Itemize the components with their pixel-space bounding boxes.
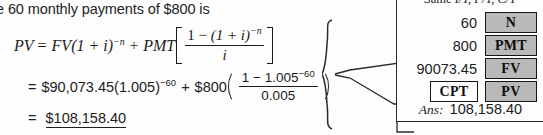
calculator-key-slot-n: N: [484, 12, 543, 33]
calculator-row-pmt: 800 PMT: [397, 34, 543, 57]
numeric-fv-value: $90,073.45: [41, 79, 114, 95]
textbook-figure-page: e 60 monthly payments of $800 is PV = FV…: [0, 0, 543, 135]
answer-value: 108,158.40: [450, 101, 523, 117]
numeric-plus-sign: +: [181, 79, 189, 95]
right-bracket: [267, 27, 273, 64]
calculator-answer-row: Ans:108,158.40: [397, 101, 543, 118]
calculator-key-slot-fv: FV: [484, 58, 543, 79]
numeric-fv-base-text: (1.005): [114, 79, 160, 95]
calculator-key-slot-pmt: PMT: [484, 35, 543, 56]
formula-pmt-symbol: PMT: [143, 37, 175, 55]
formula-fv-base: (1 + i)−n: [71, 37, 125, 55]
result-line: = $108,158.40: [28, 110, 126, 126]
result-equals-sign: =: [28, 110, 36, 126]
numerator-base: (1 + i): [211, 27, 250, 43]
numeric-annuity-fraction: 1 − 1.005−60 0.005: [237, 70, 320, 103]
numeric-pmt-value: $800: [195, 79, 227, 95]
calculator-key-pmt[interactable]: PMT: [485, 35, 537, 56]
calculator-key-slot-pv: PV: [484, 81, 543, 102]
calculator-key-n[interactable]: N: [485, 12, 537, 33]
numeric-fraction-denominator: 0.005: [258, 87, 298, 103]
numeric-substitution-line: = $90,073.45 (1.005)−60 + $800 1 − 1.005…: [28, 70, 329, 103]
formula-fv-base-text: (1 + i): [71, 37, 113, 54]
numeric-numerator-text: 1 − 1.005: [242, 70, 299, 85]
formula-bracketed-fraction: 1 − (1 + i)−n i: [176, 27, 273, 64]
calculator-value-pmt: 800: [397, 38, 484, 54]
calculator-key-pv[interactable]: PV: [485, 81, 537, 102]
curly-brace: [322, 20, 332, 129]
numeric-equals-sign: =: [28, 79, 36, 95]
calculator-key-cpt[interactable]: CPT: [430, 81, 478, 102]
calculator-value-n: 60: [397, 15, 484, 31]
formula-plus-sign: +: [130, 37, 138, 54]
prose-line: e 60 monthly payments of $800 is: [0, 1, 210, 17]
calculator-keystroke-panel: Same I/Y, P/Y, C/Y 60 N 800 PMT 90073.45…: [396, 0, 543, 122]
calculator-row-compute: CPT PV: [397, 80, 543, 103]
numeric-fv-exponent: −60: [160, 77, 176, 88]
left-paren: [228, 70, 237, 103]
calculator-header-prefix: Same: [424, 0, 455, 6]
symbolic-formula: PV = FV (1 + i)−n + PMT 1 − (1 + i)−n i: [14, 27, 273, 64]
formula-fv-exponent: −n: [113, 35, 125, 46]
calculator-row-fv: 90073.45 FV: [397, 57, 543, 80]
calculator-header: Same I/Y, P/Y, C/Y: [397, 0, 543, 7]
numeric-fraction-numerator: 1 − 1.005−60: [239, 70, 318, 86]
formula-fv-symbol: FV: [52, 37, 72, 55]
calculator-row-n: 60 N: [397, 11, 543, 34]
fraction-numerator: 1 − (1 + i)−n: [185, 27, 264, 45]
calculator-cpt-slot: CPT: [397, 81, 484, 102]
numerator-exponent: −n: [250, 25, 262, 36]
numeric-parenthesized-fraction: 1 − 1.005−60 0.005: [228, 70, 329, 103]
formula-equals-sign: =: [38, 37, 47, 55]
calculator-header-symbols: I/Y, P/Y, C/Y: [455, 0, 517, 6]
annuity-factor-fraction: 1 − (1 + i)−n i: [182, 27, 267, 64]
numeric-fv-base: (1.005)−60: [114, 79, 176, 95]
answer-label: Ans:: [419, 102, 444, 117]
calculator-value-fv: 90073.45: [397, 61, 484, 77]
fraction-denominator: i: [220, 46, 228, 64]
formula-lhs-pv: PV: [14, 37, 34, 55]
calculator-key-fv[interactable]: FV: [485, 58, 537, 79]
numerator-lead: 1 −: [187, 27, 210, 43]
result-value: $108,158.40: [46, 110, 127, 128]
